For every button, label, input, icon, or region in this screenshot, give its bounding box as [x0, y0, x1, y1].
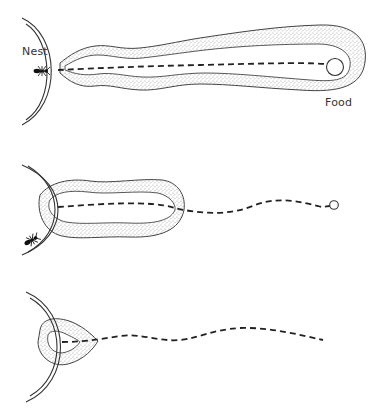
panel-1	[22, 18, 365, 125]
nest-label: Nest	[22, 45, 48, 58]
food-label: Food	[325, 96, 352, 109]
food-source-icon	[327, 59, 344, 76]
food-source-icon	[330, 201, 339, 210]
trail-loop-inner	[49, 191, 175, 223]
panel-2	[22, 165, 338, 255]
ant-path-dashed	[62, 328, 323, 342]
ant-trail-diagram	[0, 0, 386, 415]
panel-3	[26, 292, 323, 402]
